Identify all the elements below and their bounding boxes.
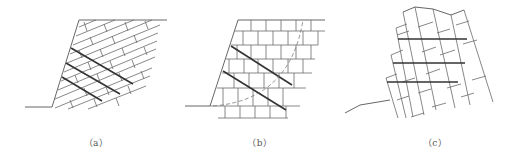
panel-a-drawing (25, 20, 167, 109)
bedding-lines-a (55, 20, 160, 109)
slope-a-profile (25, 20, 167, 107)
panel-c-drawing (345, 7, 493, 118)
caption-b: （b） (240, 136, 280, 149)
caption-a: （a） (76, 136, 116, 149)
caption-c: （c） (415, 136, 455, 149)
joints-b (223, 46, 292, 110)
panel-b-drawing (185, 20, 325, 118)
slope-b-profile (185, 20, 325, 106)
ground-c (345, 100, 390, 113)
